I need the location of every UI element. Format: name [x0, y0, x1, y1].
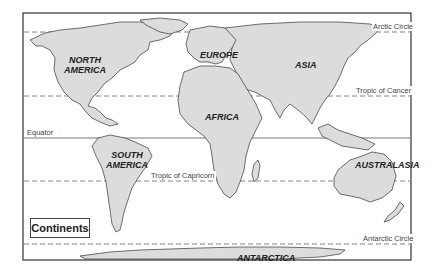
label-north-america-line2: AMERICA — [64, 65, 106, 75]
label-equator: Equator — [26, 128, 54, 137]
label-asia: ASIA — [295, 60, 317, 70]
label-south-america-line2: AMERICA — [106, 160, 148, 170]
label-north-america: NORTH AMERICA — [64, 55, 106, 75]
label-south-america: SOUTH AMERICA — [106, 150, 148, 170]
label-tropic-of-cancer: Tropic of Cancer — [355, 86, 412, 95]
antarctica-shape — [80, 247, 345, 259]
label-australasia: AUSTRALASIA — [355, 160, 420, 170]
map-title: Continents — [30, 218, 90, 238]
se-asia-islands-shape — [318, 124, 375, 150]
label-africa: AFRICA — [205, 112, 239, 122]
label-arctic-circle: Arctic Circle — [372, 22, 414, 31]
madagascar-shape — [252, 160, 260, 182]
label-antarctic-circle: Antarctic Circle — [362, 234, 414, 243]
label-europe: EUROPE — [200, 50, 238, 60]
label-south-america-line1: SOUTH — [106, 150, 148, 160]
label-antarctica: ANTARCTICA — [237, 253, 295, 263]
label-tropic-of-capricorn: Tropic of Capricorn — [150, 171, 216, 180]
label-north-america-line1: NORTH — [64, 55, 106, 65]
new-zealand-shape — [384, 202, 404, 222]
